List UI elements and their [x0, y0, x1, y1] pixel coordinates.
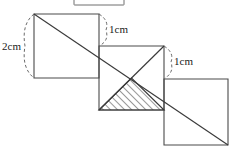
- right-square: [164, 79, 228, 145]
- geometry-diagram: 2cm 1cm 1cm: [0, 0, 232, 154]
- cropped-label-box: [74, 0, 124, 5]
- label-2cm: 2cm: [2, 40, 21, 52]
- left-square: [34, 14, 99, 78]
- dimension-brace-1cm-first: [99, 14, 107, 46]
- label-1cm-second: 1cm: [174, 55, 193, 67]
- label-1cm-first: 1cm: [109, 23, 128, 35]
- figure-root: 2cm 1cm 1cm: [0, 0, 232, 154]
- dimension-brace-1cm-second: [164, 46, 172, 79]
- dimension-brace-2cm: [24, 14, 34, 78]
- shaded-triangle: [99, 78, 164, 110]
